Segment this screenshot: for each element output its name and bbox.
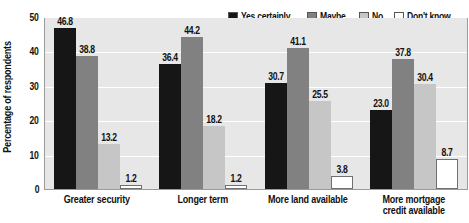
bar-rect (54, 28, 76, 189)
bar[interactable]: 44.2 (181, 37, 203, 189)
bar[interactable]: 23.0 (370, 110, 392, 189)
bar-rect (265, 83, 287, 189)
y-axis-tick-label: 50 (30, 13, 39, 23)
y-axis-tick-label: 20 (30, 116, 39, 126)
bar-rect (225, 185, 247, 189)
y-axis-tick-label: 10 (30, 151, 39, 161)
bar-value-label: 46.8 (57, 17, 73, 27)
bar-rect (436, 159, 458, 189)
bar-rect (159, 64, 181, 189)
bar-value-label: 23.0 (373, 99, 389, 109)
bar[interactable]: 18.2 (203, 126, 225, 189)
bar-chart: Yes certainlyMaybeNoDon't know Percentag… (0, 0, 469, 223)
bar[interactable]: 37.8 (392, 59, 414, 189)
bar[interactable]: 1.2 (120, 185, 142, 189)
bar[interactable]: 41.1 (287, 48, 309, 189)
plot-area: 46.838.813.21.236.444.218.21.230.741.125… (44, 18, 468, 190)
bar-value-label: 37.8 (395, 48, 411, 58)
bar-group: 30.741.125.53.8 (256, 18, 362, 189)
bar-value-label: 30.7 (268, 72, 284, 82)
bar-rect (98, 144, 120, 189)
bar-value-label: 36.4 (162, 53, 178, 63)
y-axis-tick-label: 30 (30, 82, 39, 92)
bar-rect (331, 176, 353, 189)
bar[interactable]: 46.8 (54, 28, 76, 189)
x-axis-category-line: credit available (366, 205, 461, 216)
x-axis-category-line: Longer term (155, 194, 250, 205)
y-axis-tick-label: 40 (30, 47, 39, 57)
bar-group: 36.444.218.21.2 (151, 18, 257, 189)
bar-value-label: 1.2 (125, 174, 136, 184)
bar-value-label: 30.4 (417, 73, 433, 83)
bar[interactable]: 1.2 (225, 185, 247, 189)
bar[interactable]: 38.8 (76, 56, 98, 189)
x-axis-category-labels: Greater securityLonger termMore land ava… (44, 192, 468, 223)
bar-value-label: 3.8 (336, 165, 347, 175)
bar-rect (287, 48, 309, 189)
bar-value-label: 44.2 (184, 26, 200, 36)
bar-group: 23.037.830.48.7 (362, 18, 468, 189)
bar-rect (309, 101, 331, 189)
bar-rect (203, 126, 225, 189)
x-axis-category-label: Greater security (49, 194, 144, 205)
bar[interactable]: 30.7 (265, 83, 287, 189)
bar-value-label: 41.1 (290, 37, 306, 47)
bar-value-label: 13.2 (101, 133, 117, 143)
bar[interactable]: 30.4 (414, 84, 436, 189)
x-axis-category-line: More mortgage (366, 194, 461, 205)
bar-rect (76, 56, 98, 189)
bar-value-label: 8.7 (442, 148, 453, 158)
y-axis-tick-label: 0 (34, 185, 39, 195)
bar[interactable]: 8.7 (436, 159, 458, 189)
y-axis-tick-labels: 50403020100 (16, 18, 42, 190)
bar-value-label: 38.8 (79, 45, 95, 55)
x-axis-category-line: Greater security (49, 194, 144, 205)
bars-layer: 46.838.813.21.236.444.218.21.230.741.125… (45, 18, 467, 189)
x-axis-category-label: More land available (260, 194, 355, 205)
bar-value-label: 18.2 (206, 115, 222, 125)
bar-rect (414, 84, 436, 189)
bar-group: 46.838.813.21.2 (45, 18, 151, 189)
bar-value-label: 1.2 (231, 174, 242, 184)
bar-rect (370, 110, 392, 189)
x-axis-category-label: More mortgagecredit available (366, 194, 461, 216)
y-axis-title: Percentage of respondents (0, 0, 16, 193)
bar-rect (392, 59, 414, 189)
bar[interactable]: 3.8 (331, 176, 353, 189)
y-axis-title-text: Percentage of respondents (3, 41, 13, 153)
x-axis-category-label: Longer term (155, 194, 250, 205)
bar[interactable]: 13.2 (98, 144, 120, 189)
bar-rect (120, 185, 142, 189)
bar-value-label: 25.5 (312, 90, 328, 100)
x-axis-category-line: More land available (260, 194, 355, 205)
bar[interactable]: 25.5 (309, 101, 331, 189)
bar-rect (181, 37, 203, 189)
bar[interactable]: 36.4 (159, 64, 181, 189)
